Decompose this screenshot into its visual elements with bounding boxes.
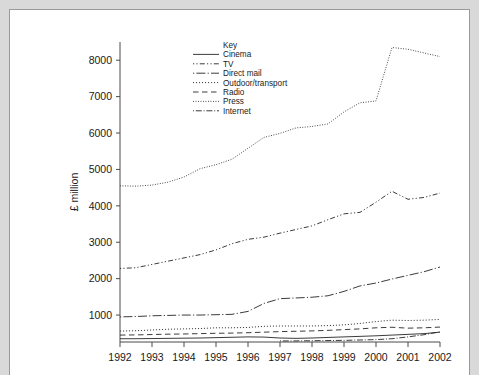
y-tick-label: 7000: [89, 90, 113, 102]
series-line-cinema: [120, 332, 440, 339]
y-tick-label: 8000: [89, 54, 113, 66]
y-tick-label: 4000: [89, 200, 113, 212]
legend-label-direct-mail[interactable]: Direct mail: [223, 69, 262, 78]
y-axis-ticks: [116, 60, 120, 315]
legend-title: Key: [223, 41, 238, 50]
y-axis-title-text: £ million: [68, 173, 80, 212]
x-tick-label: 1992: [108, 351, 132, 363]
x-tick-label: 1999: [332, 351, 356, 363]
x-tick-label: 2000: [364, 351, 388, 363]
legend-label-radio[interactable]: Radio: [223, 88, 245, 97]
series-line-tv: [120, 191, 440, 268]
legend-label-outdoor-transport[interactable]: Outdoor/transport: [223, 79, 288, 88]
x-tick-label: 2002: [428, 351, 452, 363]
x-axis-tick-labels: 1992199319941995199619971998199920002001…: [108, 351, 452, 363]
x-axis-ticks: [120, 342, 440, 347]
y-axis-tick-labels: 10002000300040005000600070008000: [89, 54, 113, 321]
chart-figure: 10002000300040005000600070008000 1992199…: [10, 10, 469, 375]
x-tick-label: 1994: [172, 351, 196, 363]
chart-legend[interactable]: KeyCinemaTVDirect mailOutdoor/transportR…: [193, 41, 288, 116]
legend-label-press[interactable]: Press: [223, 97, 244, 106]
x-tick-label: 1995: [204, 351, 228, 363]
x-tick-label: 1997: [268, 351, 292, 363]
legend-label-cinema[interactable]: Cinema: [223, 50, 252, 59]
y-tick-label: 3000: [89, 236, 113, 248]
x-tick-label: 1996: [236, 351, 260, 363]
y-axis-title: £ million: [68, 173, 80, 212]
y-tick-label: 2000: [89, 272, 113, 284]
series-line-radio: [120, 327, 440, 335]
y-tick-label: 5000: [89, 163, 113, 175]
series-line-press: [120, 47, 440, 186]
y-tick-label: 6000: [89, 127, 113, 139]
x-tick-label: 2001: [396, 351, 420, 363]
series-line-direct-mail: [120, 267, 440, 317]
x-tick-label: 1998: [300, 351, 324, 363]
legend-label-internet[interactable]: Internet: [223, 107, 251, 116]
figure-frame: 10002000300040005000600070008000 1992199…: [9, 9, 470, 375]
series-line-outdoor-transport: [120, 319, 440, 331]
legend-label-tv[interactable]: TV: [223, 60, 234, 69]
y-tick-label: 1000: [89, 309, 113, 321]
chart-series-group: [120, 47, 440, 340]
x-tick-label: 1993: [140, 351, 164, 363]
line-chart-canvas[interactable]: 10002000300040005000600070008000 1992199…: [10, 10, 469, 375]
